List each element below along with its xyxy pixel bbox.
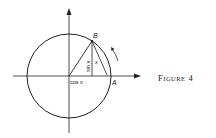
y-axis-arrow-icon [67, 8, 72, 15]
cos-label: cos x [70, 79, 83, 85]
unit-circle-diagram: B A cos x sin x x FIGURE4 [0, 0, 216, 138]
arc-label: x [94, 59, 98, 65]
x-axis-arrow-icon [134, 74, 141, 79]
sin-label: sin x [85, 60, 91, 72]
point-b-label: B [93, 32, 98, 39]
chord-ba [92, 41, 107, 75]
point-b-dot [91, 40, 93, 42]
arc-direction-arrow [112, 49, 118, 61]
figure-caption: FIGURE4 [158, 73, 194, 83]
point-a-label: A [111, 79, 117, 86]
